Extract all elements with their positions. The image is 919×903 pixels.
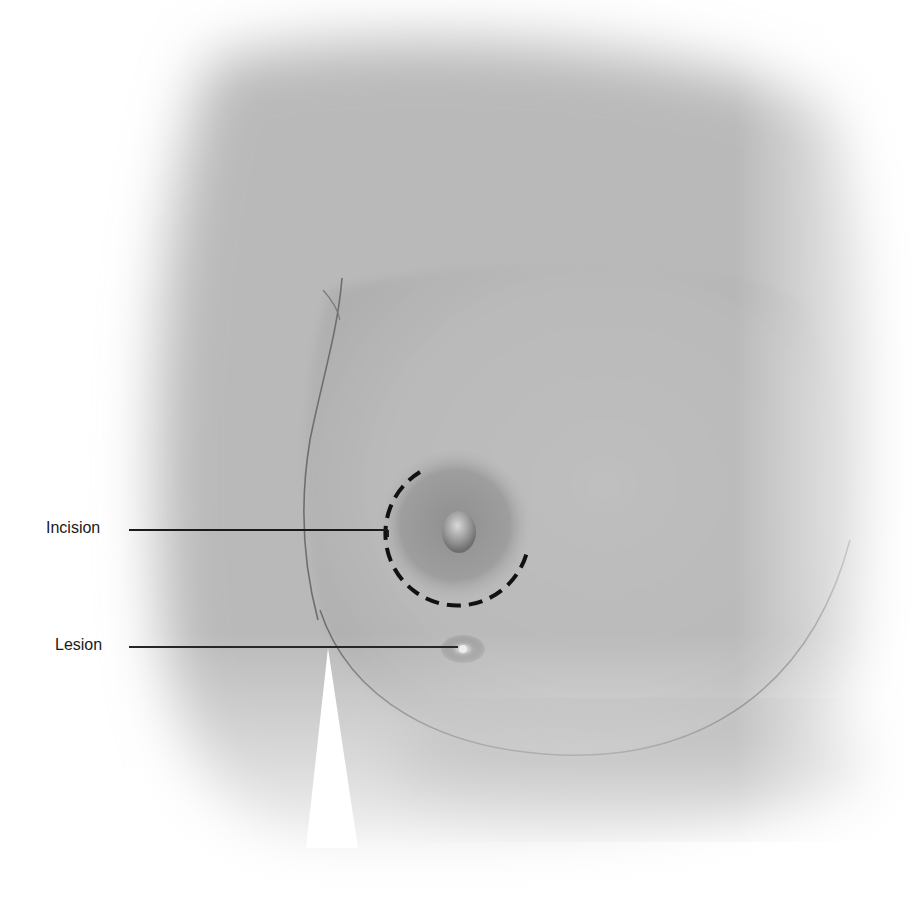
breast-illustration xyxy=(0,0,919,903)
lesion-label: Lesion xyxy=(55,637,102,653)
incision-label: Incision xyxy=(46,520,100,536)
